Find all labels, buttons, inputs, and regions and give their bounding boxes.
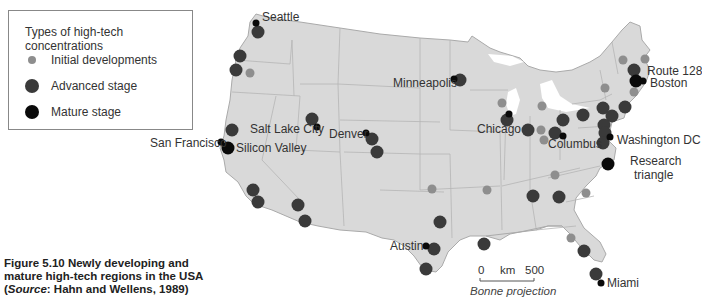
label-denver: Denver <box>329 127 368 141</box>
label-chicago: Chicago <box>477 122 521 136</box>
caption-line-2: mature high-tech regions in the USA <box>4 270 224 283</box>
projection-label: Bonne projection <box>470 285 556 297</box>
legend-title: Types of high-tech concentrations <box>25 25 192 53</box>
label-austin: Austin <box>390 239 423 253</box>
label-triangle: triangle <box>634 168 673 182</box>
label-miami: Miami <box>607 276 639 290</box>
initial-dot-icon <box>28 56 36 64</box>
label-research: Research <box>630 154 681 168</box>
caption-source-word: Source <box>8 283 47 295</box>
label-washington-dc: Washington DC <box>617 133 701 147</box>
label-salt-lake-city: Salt Lake City <box>250 122 324 136</box>
legend-item-mature: Mature stage <box>25 105 121 119</box>
advanced-dot-icon <box>25 79 39 93</box>
label-silicon-valley: Silicon Valley <box>236 141 306 155</box>
legend-label-mature: Mature stage <box>51 105 121 119</box>
figure-caption: Figure 5.10 Newly developing and mature … <box>4 257 224 296</box>
caption-line-3: (Source: Hahn and Wellens, 1989) <box>4 283 224 296</box>
label-seattle: Seattle <box>262 10 299 24</box>
legend-label-initial: Initial developments <box>51 53 157 67</box>
scale-zero: 0 <box>478 264 484 276</box>
legend-item-advanced: Advanced stage <box>25 79 137 93</box>
label-columbus: Columbus <box>548 137 602 151</box>
legend-label-advanced: Advanced stage <box>51 79 137 93</box>
scale-unit: km <box>500 264 515 276</box>
legend-box: Types of high-tech concentrations Initia… <box>8 10 193 130</box>
label-minneapolis: Minneapolis <box>393 76 457 90</box>
scale-max: 500 <box>525 264 544 276</box>
mature-dot-icon <box>25 105 39 119</box>
caption-line-1: Figure 5.10 Newly developing and <box>4 257 224 270</box>
scale-bar <box>480 278 534 281</box>
legend-item-initial: Initial developments <box>25 53 157 67</box>
caption-source-text: : Hahn and Wellens, 1989) <box>47 283 189 295</box>
label-boston: Boston <box>650 76 687 90</box>
label-san-francisco: San Francisco <box>150 136 227 150</box>
